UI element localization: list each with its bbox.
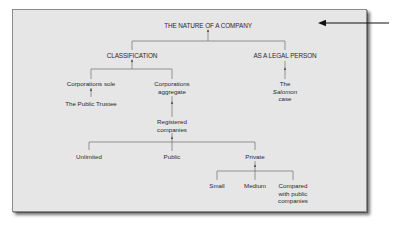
node-corporations-aggregate: Corporations aggregate [154,80,189,95]
node-salomon-line1: The [273,80,297,88]
node-salomon-line3: case [273,95,297,103]
node-root: THE NATURE OF A COMPANY [164,22,252,30]
diagram-stage: THE NATURE OF A COMPANY CLASSIFICATION A… [0,0,393,228]
node-registered-line1: Registered [157,118,187,126]
diagram-panel [12,9,367,212]
node-registered-companies: Registered companies [157,118,187,133]
node-corporations-aggregate-line2: aggregate [154,88,189,96]
node-registered-line2: companies [157,126,187,134]
node-compared-line1: Compared [278,182,308,190]
node-corporations-aggregate-line1: Corporations [154,80,189,88]
node-compared-with-public: Compared with public companies [278,182,308,205]
node-small: Small [209,182,224,190]
node-private: Private [245,153,264,161]
node-compared-line3: companies [278,197,308,205]
node-unlimited: Unlimited [76,153,102,161]
node-public-trustee: The Public Trustee [65,100,117,108]
node-corporations-sole: Corporations sole [67,80,116,88]
pointer-arrow-icon [318,19,390,27]
node-classification: CLASSIFICATION [107,52,158,60]
node-salomon-case: The Salomon case [273,80,297,103]
node-public: Public [164,153,181,161]
node-medium: Medium [244,182,266,190]
node-legal-person: AS A LEGAL PERSON [253,52,316,60]
node-compared-line2: with public [278,190,308,198]
node-salomon-line2: Salomon [273,88,297,95]
